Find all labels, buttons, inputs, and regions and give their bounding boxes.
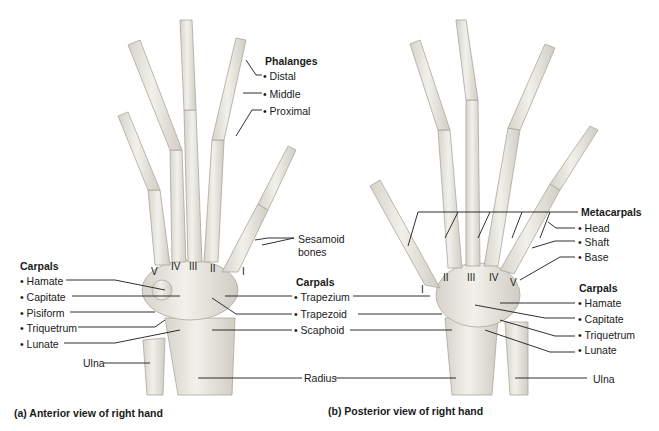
- carpals-left-heading: Carpals: [20, 260, 59, 272]
- posterior-lunate-label: Lunate: [578, 344, 617, 356]
- posterior-capitate-label: Capitate: [578, 313, 624, 325]
- carpal-trapezium-label: Trapezium: [294, 291, 350, 303]
- caption-posterior: (b) Posterior view of right hand: [328, 405, 483, 417]
- ulna-anterior-label: Ulna: [83, 357, 105, 369]
- metacarpal-base-label: Base: [578, 251, 609, 263]
- phalanx-proximal-label: Proximal: [263, 105, 310, 117]
- phalanx-middle-label: Middle: [263, 88, 301, 100]
- phalanges-heading: Phalanges: [265, 55, 318, 67]
- posterior-numeral-iv: IV: [489, 272, 498, 283]
- posterior-numeral-i: I: [421, 284, 424, 295]
- anterior-numeral-i: I: [242, 266, 245, 277]
- caption-anterior: (a) Anterior view of right hand: [14, 407, 163, 419]
- radius-label: Radius: [304, 372, 337, 384]
- posterior-numeral-v: V: [510, 277, 517, 288]
- posterior-hand-bones: [370, 20, 598, 395]
- posterior-hamate-label: Hamate: [578, 297, 621, 309]
- posterior-triquetrum-label: Triquetrum: [578, 329, 635, 341]
- posterior-numeral-iii: III: [467, 272, 475, 283]
- sesamoid-label-line1: Sesamoid: [298, 233, 345, 245]
- carpals-posterior-heading: Carpals: [579, 282, 618, 294]
- carpal-hamate-label: Hamate: [20, 275, 63, 287]
- carpals-center-heading: Carpals: [296, 276, 335, 288]
- posterior-numeral-ii: II: [443, 272, 449, 283]
- carpal-lunate-label: Lunate: [20, 338, 59, 350]
- ulna-posterior-label: Ulna: [593, 373, 615, 385]
- anterior-numeral-v: V: [151, 266, 158, 277]
- anterior-numeral-iii: III: [189, 261, 197, 272]
- carpal-capitate-label: Capitate: [20, 291, 66, 303]
- sesamoid-label-line2: bones: [298, 246, 327, 258]
- anterior-numeral-iv: IV: [171, 261, 180, 272]
- carpal-scaphoid-label: Scaphoid: [294, 324, 344, 336]
- carpal-trapezoid-label: Trapezoid: [294, 308, 347, 320]
- phalanx-distal-label: Distal: [263, 70, 296, 82]
- carpal-pisiform-label: Pisiform: [20, 307, 65, 319]
- anterior-numeral-ii: II: [210, 263, 216, 274]
- carpal-triquetrum-label: Triquetrum: [20, 322, 77, 334]
- metacarpal-shaft-label: Shaft: [578, 236, 609, 248]
- metacarpal-head-label: Head: [578, 222, 610, 234]
- metacarpals-heading: Metacarpals: [581, 206, 642, 218]
